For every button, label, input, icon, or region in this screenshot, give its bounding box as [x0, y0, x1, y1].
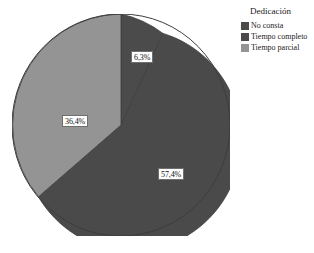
pie-chart-figure: 6,3% 36,4% 57,4% Dedicación No consta Ti… [0, 0, 314, 253]
legend-item-tiempo-parcial[interactable]: Tiempo parcial [241, 43, 313, 52]
slice-value-label-tiempo-parcial: 36,4% [62, 115, 88, 127]
legend: Dedicación No consta Tiempo completo Tie… [241, 6, 313, 54]
slice-value-label-tiempo-completo: 57,4% [158, 168, 184, 180]
pie-chart-plot-area: 6,3% 36,4% 57,4% [12, 14, 230, 236]
legend-label-tiempo-completo: Tiempo completo [251, 32, 307, 41]
slice-value-label-no-consta: 6,3% [131, 51, 153, 63]
legend-label-tiempo-parcial: Tiempo parcial [251, 43, 299, 52]
legend-item-tiempo-completo[interactable]: Tiempo completo [241, 32, 313, 41]
legend-label-no-consta: No consta [251, 21, 283, 30]
legend-item-no-consta[interactable]: No consta [241, 21, 313, 30]
pie-svg [12, 14, 230, 236]
legend-swatch-icon-tiempo-parcial [241, 44, 249, 52]
legend-swatch-icon-tiempo-completo [241, 33, 249, 41]
legend-swatch-icon-no-consta [241, 22, 249, 30]
legend-title: Dedicación [250, 6, 313, 17]
